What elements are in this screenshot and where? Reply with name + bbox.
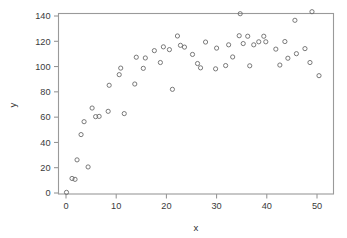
x-tick-label: 40 — [262, 201, 272, 211]
y-axis-title: y — [7, 102, 18, 107]
scatter-plot-figure: 020406080100120140 01020304050 x y — [0, 0, 347, 238]
y-tick-label: 40 — [40, 138, 50, 148]
scatter-plot-canvas: 020406080100120140 01020304050 x y — [0, 0, 347, 238]
y-tick-label: 80 — [40, 87, 50, 97]
x-tick-label: 0 — [63, 201, 68, 211]
x-tick-label: 50 — [312, 201, 322, 211]
y-tick-label: 20 — [40, 163, 50, 173]
chart-root: 020406080100120140 01020304050 x y — [0, 0, 347, 238]
x-tick-label: 10 — [111, 201, 121, 211]
x-tick-label: 30 — [211, 201, 221, 211]
y-tick-label: 0 — [45, 188, 50, 198]
y-tick-label: 100 — [35, 62, 50, 72]
x-axis-title: x — [194, 222, 199, 233]
x-tick-label: 20 — [161, 201, 171, 211]
plot-background — [0, 0, 347, 238]
y-tick-label: 60 — [40, 112, 50, 122]
y-tick-label: 140 — [35, 11, 50, 21]
y-tick-label: 120 — [35, 37, 50, 47]
